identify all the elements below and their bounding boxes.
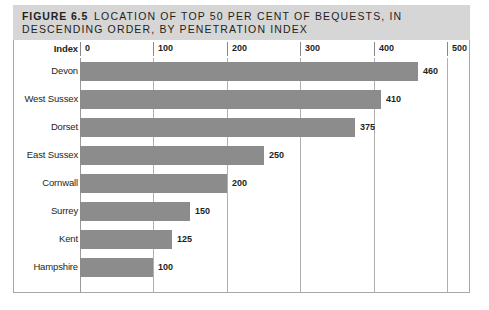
bar-category-label: Hampshire	[33, 261, 78, 272]
bar-row: Dorset375	[13, 115, 470, 143]
bar-row: Devon460	[13, 59, 470, 87]
figure-title-line-1: FIGURE 6.5 LOCATION OF TOP 50 PER CENT O…	[22, 10, 462, 23]
x-axis-header: Index 0 100 200 300 400 500	[13, 41, 470, 59]
bar-value-label: 460	[423, 66, 438, 76]
bar-category-label: West Sussex	[24, 93, 78, 104]
figure-container: FIGURE 6.5 LOCATION OF TOP 50 PER CENT O…	[13, 5, 470, 293]
bar-category-label: Dorset	[51, 121, 78, 132]
bar	[80, 118, 355, 137]
bar	[80, 146, 264, 165]
axis-index-label: Index	[54, 43, 78, 54]
bar-value-label: 200	[232, 178, 247, 188]
bar-category-label: Cornwall	[42, 177, 78, 188]
bar-row: Hampshire100	[13, 255, 470, 283]
bar-category-label: Kent	[59, 233, 78, 244]
bar-value-label: 410	[386, 94, 401, 104]
bar-row: East Sussex250	[13, 143, 470, 171]
x-axis-tick-200: 200	[227, 42, 247, 56]
bar	[80, 230, 172, 249]
bar-row: Surrey150	[13, 199, 470, 227]
figure-number: FIGURE 6.5	[22, 10, 88, 22]
bar-category-label: East Sussex	[27, 149, 78, 160]
bar-value-label: 150	[195, 206, 210, 216]
bar-value-label: 125	[177, 234, 192, 244]
x-axis-tick-400: 400	[374, 42, 394, 56]
bar-row: West Sussex410	[13, 87, 470, 115]
bar-value-label: 375	[360, 122, 375, 132]
bar	[80, 90, 381, 109]
bar	[80, 202, 190, 221]
bar	[80, 258, 153, 277]
bar-value-label: 250	[269, 150, 284, 160]
figure-title-band: FIGURE 6.5 LOCATION OF TOP 50 PER CENT O…	[13, 5, 470, 40]
bar	[80, 62, 418, 81]
bar-row: Kent125	[13, 227, 470, 255]
bar-series: Devon460West Sussex410Dorset375East Suss…	[13, 59, 470, 283]
bar-row: Cornwall200	[13, 171, 470, 199]
x-axis-tick-500: 500	[447, 42, 467, 56]
figure-title-line-2: DESCENDING ORDER, BY PENETRATION INDEX	[22, 23, 462, 36]
bar-value-label: 100	[158, 262, 173, 272]
x-axis-tick-100: 100	[153, 42, 173, 56]
bar-category-label: Surrey	[51, 205, 78, 216]
x-axis-tick-300: 300	[300, 42, 320, 56]
bar	[80, 174, 227, 193]
figure-title-text-1: LOCATION OF TOP 50 PER CENT OF BEQUESTS,…	[94, 10, 402, 22]
x-axis-tick-0: 0	[80, 42, 90, 56]
bar-category-label: Devon	[51, 65, 78, 76]
